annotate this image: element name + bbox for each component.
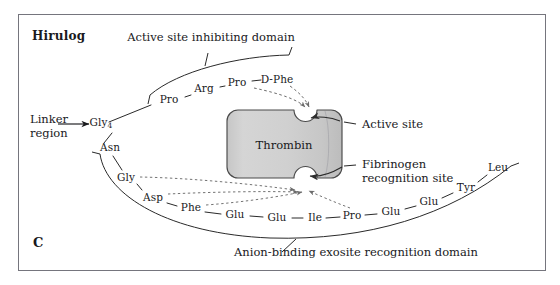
residue-gly: Gly xyxy=(117,172,135,184)
residue-gly4: Gly4 xyxy=(90,117,113,130)
active-site-inhibiting-domain-label: Active site inhibiting domain xyxy=(127,31,295,44)
thrombin-label: Thrombin xyxy=(256,139,313,152)
panel-label: C xyxy=(33,236,43,251)
linker-region-label: Linker region xyxy=(30,113,68,141)
residue-d-phe: D-Phe xyxy=(261,74,294,86)
residue-pro: Pro xyxy=(343,210,362,222)
active-site-label: Active site xyxy=(362,118,423,131)
residue-glu: Glu xyxy=(420,196,439,208)
exosite-dashed-paths xyxy=(140,177,350,208)
residue-pro: Pro xyxy=(228,77,247,89)
residue-glu: Glu xyxy=(382,206,401,218)
residue-glu: Glu xyxy=(226,209,245,221)
fibrinogen-site-line2: recognition site xyxy=(362,172,453,186)
fibrinogen-site-line1: Fibrinogen xyxy=(362,158,453,172)
residue-glu: Glu xyxy=(268,212,287,224)
residue-phe: Phe xyxy=(181,202,201,214)
linker-region-line2: region xyxy=(30,127,68,141)
inhibiting-chain-dashed-path xyxy=(254,86,309,107)
asn-gly-bond xyxy=(113,156,122,170)
anion-binding-exosite-label: Anion-binding exosite recognition domain xyxy=(234,246,478,259)
residue-ile: Ile xyxy=(308,212,322,224)
residue-leu: Leu xyxy=(488,162,508,174)
residue-gly4-subscript: 4 xyxy=(108,121,113,130)
residue-gly4-label: Gly xyxy=(90,116,108,128)
residue-tyr: Tyr xyxy=(457,182,475,194)
residue-asn: Asn xyxy=(100,142,120,154)
residue-asp: Asp xyxy=(143,192,163,204)
figure-title: Hirulog xyxy=(32,30,85,43)
fibrinogen-recognition-site-label: Fibrinogen recognition site xyxy=(362,158,453,186)
figure-panel-c: Hirulog C Active site inhibiting domain … xyxy=(0,0,560,285)
residue-arg: Arg xyxy=(194,83,214,95)
linker-region-line1: Linker xyxy=(30,113,68,127)
residue-pro: Pro xyxy=(160,94,179,106)
